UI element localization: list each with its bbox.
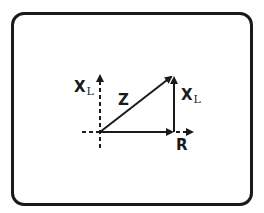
xl-label: XL xyxy=(181,86,202,106)
impedance-triangle-diagram: XL Z XL R xyxy=(0,0,264,213)
axis-xl-label: XL xyxy=(74,78,95,98)
r-label: R xyxy=(176,136,188,154)
z-label: Z xyxy=(118,91,129,109)
z-vector-arrow xyxy=(100,77,171,132)
